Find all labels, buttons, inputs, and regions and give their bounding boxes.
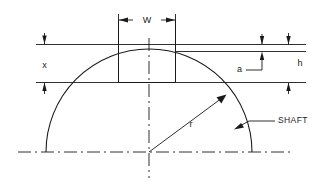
r-dimension-label: r	[190, 119, 193, 129]
shaft-callout-group: SHAFT	[234, 115, 308, 129]
x-arrowhead-bottom	[42, 83, 46, 92]
centerline-group	[18, 38, 292, 178]
reference-lines-group	[36, 45, 306, 83]
shaft-callout-label: SHAFT	[278, 115, 308, 125]
shaft-leader-arrowhead	[234, 123, 244, 130]
h-dimension-label: h	[297, 58, 302, 68]
radius-dimension-line	[149, 98, 222, 152]
w-dimension-label: W	[143, 15, 152, 25]
radius-arrowhead	[217, 95, 227, 104]
a-leader-line	[246, 60, 262, 70]
h-arrowhead-bottom	[286, 83, 290, 92]
a-arrowhead-bottom	[260, 52, 264, 61]
w-arrowhead-right	[166, 18, 175, 23]
dimension-w-group: W	[119, 14, 176, 44]
technical-drawing-canvas: W x a h	[0, 0, 329, 188]
a-dimension-label: a	[237, 64, 242, 74]
keyway-dimension-diagram: W x a h	[0, 0, 329, 188]
x-arrowhead-top	[42, 36, 46, 45]
dimension-x-group: x	[42, 33, 47, 94]
h-arrowhead-top	[286, 36, 290, 45]
dimension-a-group: a	[237, 34, 264, 74]
dimension-h-group: h	[286, 33, 302, 94]
x-dimension-label: x	[42, 60, 47, 70]
dimension-r-group: r	[149, 95, 227, 152]
w-arrowhead-left	[119, 18, 128, 23]
